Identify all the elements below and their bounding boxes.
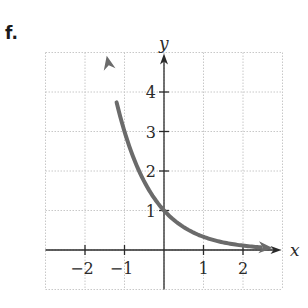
y-tick-label: 4 — [146, 83, 156, 102]
x-tick-label: 1 — [198, 259, 208, 278]
axis-ticks: −2−1121234 — [70, 83, 248, 278]
x-axis-label: x — [290, 240, 300, 260]
curve-arrow-up-icon — [104, 56, 116, 71]
x-tick-label: −2 — [70, 259, 94, 278]
x-tick-label: −1 — [110, 259, 134, 278]
x-tick-label: 2 — [238, 259, 248, 278]
exponential-curve — [117, 102, 261, 247]
y-axis-label: y — [158, 33, 169, 53]
y-tick-label: 1 — [146, 202, 156, 221]
curve-arrowheads — [104, 56, 273, 253]
y-tick-label: 2 — [146, 162, 156, 181]
y-tick-label: 3 — [146, 123, 156, 142]
function-graph: −2−1121234 x y — [0, 0, 308, 308]
